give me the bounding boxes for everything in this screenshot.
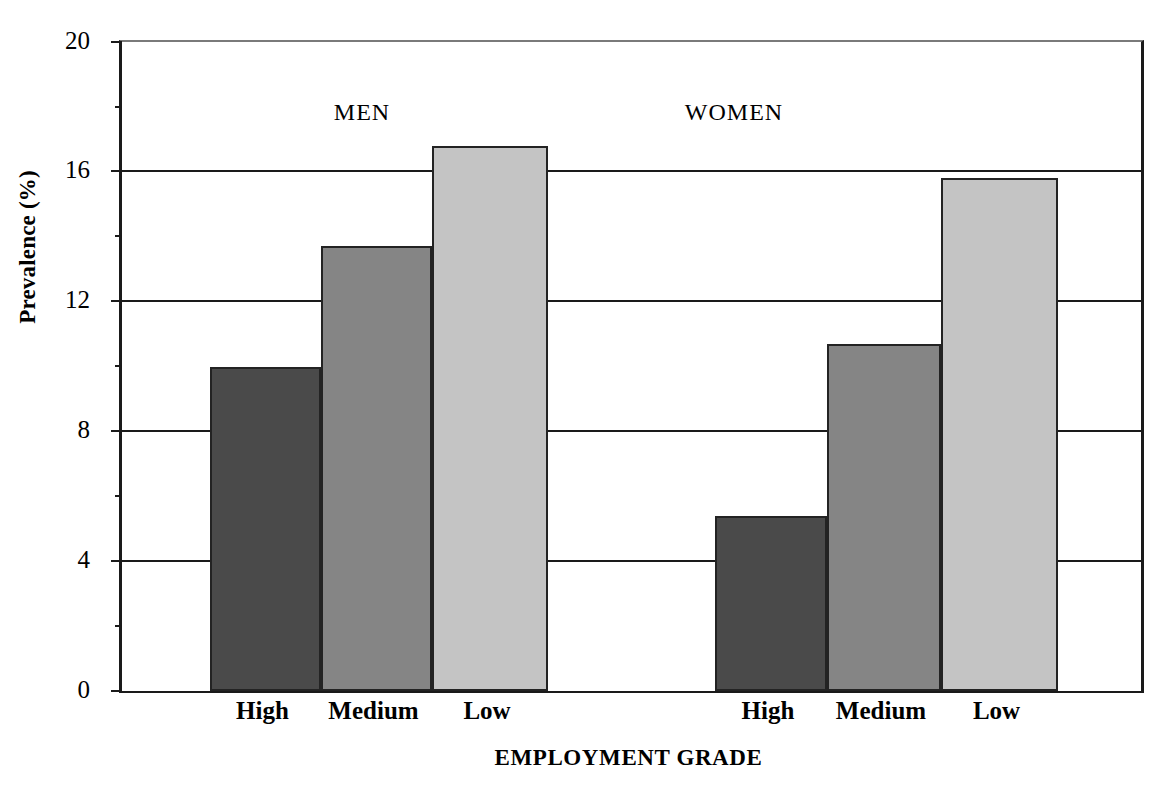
ytick-mark-16 — [111, 170, 122, 172]
bar-women-high[interactable] — [715, 516, 827, 691]
group-label-men: MEN — [262, 100, 462, 124]
ytick-label-16: 16 — [0, 157, 90, 182]
category-label-women-low: Low — [938, 698, 1055, 723]
category-label-men-high: High — [207, 698, 318, 723]
bar-women-medium[interactable] — [827, 344, 941, 691]
bar-men-high[interactable] — [210, 367, 321, 692]
bar-men-medium[interactable] — [321, 246, 432, 691]
category-label-women-medium: Medium — [824, 698, 938, 723]
ytick-mark-20 — [111, 41, 122, 43]
category-label-men-medium: Medium — [318, 698, 429, 723]
ytick-label-20: 20 — [0, 28, 90, 53]
ytick-label-0: 0 — [0, 677, 90, 702]
bar-women-low[interactable] — [941, 178, 1058, 691]
ytick-label-8: 8 — [0, 417, 90, 442]
category-label-women-high: High — [712, 698, 824, 723]
ytick-mark-18 — [115, 106, 122, 108]
ytick-label-4: 4 — [0, 547, 90, 572]
bar-chart-figure: Prevalence (%) 20 16 12 8 4 0 — [0, 0, 1163, 794]
ytick-mark-12 — [111, 300, 122, 302]
ytick-mark-4 — [111, 560, 122, 562]
category-label-men-low: Low — [429, 698, 545, 723]
ytick-label-12: 12 — [0, 287, 90, 312]
gridline-16 — [122, 170, 1141, 172]
group-label-women: WOMEN — [634, 100, 834, 124]
plot-area — [119, 40, 1144, 693]
bar-men-low[interactable] — [432, 146, 548, 691]
ytick-mark-10 — [115, 365, 122, 367]
ytick-mark-14 — [115, 235, 122, 237]
y-axis-title: Prevalence (%) — [0, 0, 56, 794]
ytick-mark-0 — [111, 690, 122, 692]
ytick-mark-2 — [115, 625, 122, 627]
ytick-mark-6 — [115, 495, 122, 497]
ytick-mark-8 — [111, 430, 122, 432]
x-axis-title: EMPLOYMENT GRADE — [119, 745, 1138, 771]
